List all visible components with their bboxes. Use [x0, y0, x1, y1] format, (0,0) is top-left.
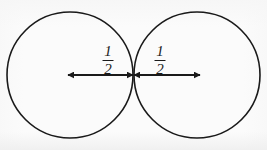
left-radius-label: 1 2: [103, 44, 114, 77]
left-radius-denominator: 2: [103, 62, 114, 77]
tangent-circles-figure: 1 2 1 2: [0, 0, 267, 150]
right-radius-denominator: 2: [155, 62, 166, 77]
right-radius-numerator: 1: [155, 44, 166, 59]
circles-diagram: [0, 0, 267, 150]
left-radius-numerator: 1: [103, 44, 114, 59]
right-radius-label: 1 2: [155, 44, 166, 77]
